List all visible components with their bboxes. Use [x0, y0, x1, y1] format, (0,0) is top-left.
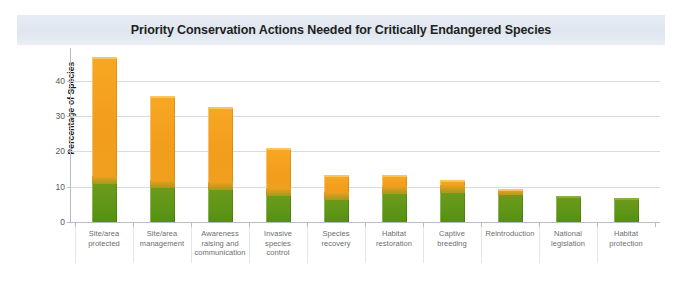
bar-highlight-cap — [556, 196, 581, 198]
bar[interactable] — [324, 175, 349, 222]
y-tick-mark — [67, 187, 71, 188]
y-tick-mark — [67, 81, 71, 82]
bar[interactable] — [440, 180, 465, 222]
x-axis-label: Habitatrestoration — [365, 229, 423, 248]
bar[interactable] — [614, 198, 639, 222]
y-tick-label: 40 — [56, 76, 65, 86]
bar-highlight-cap — [266, 148, 291, 150]
y-tick-mark — [67, 151, 71, 152]
bar-highlight-cap — [150, 96, 175, 98]
bar-segment-upper — [92, 57, 117, 184]
x-axis-label: Site/areamanagement — [133, 229, 191, 248]
bar-segment-lower — [324, 200, 349, 222]
scan-artifact-strip — [0, 0, 682, 14]
chart-figure: Priority Conservation Actions Needed for… — [0, 0, 682, 284]
bar-segment-upper — [208, 107, 233, 190]
bar-highlight-cap — [208, 107, 233, 109]
chart-title-banner: Priority Conservation Actions Needed for… — [17, 15, 665, 45]
y-axis-line — [70, 48, 71, 222]
bar-highlight-cap — [614, 198, 639, 200]
y-tick-mark — [67, 116, 71, 117]
x-axis-label: Invasivespeciescontrol — [249, 229, 307, 258]
bar-segment-lower — [266, 196, 291, 222]
x-axis-label: Habitatprotection — [597, 229, 655, 248]
bar[interactable] — [92, 57, 117, 222]
gridline — [70, 81, 660, 82]
y-tick-mark — [67, 222, 71, 223]
x-axis-label: Reintroduction — [481, 229, 539, 239]
y-tick-label: 30 — [56, 111, 65, 121]
bar-segment-lower — [440, 193, 465, 222]
bar[interactable] — [150, 96, 175, 222]
bar-segment-lower — [556, 196, 581, 222]
bar-highlight-cap — [92, 57, 117, 59]
bar-highlight-cap — [498, 189, 523, 191]
x-axis-label: Captivebreeding — [423, 229, 481, 248]
y-tick-label: 20 — [56, 146, 65, 156]
bar-segment-lower — [498, 195, 523, 222]
plot-inner: 010203040 Site/areaprotectedSite/areaman… — [70, 45, 662, 273]
bar[interactable] — [266, 148, 291, 222]
bar[interactable] — [382, 175, 407, 222]
bar-highlight-cap — [382, 175, 407, 177]
bar[interactable] — [498, 189, 523, 222]
bar-highlight-cap — [440, 180, 465, 182]
bar-segment-lower — [382, 194, 407, 222]
y-tick-label: 10 — [56, 182, 65, 192]
chart-title: Priority Conservation Actions Needed for… — [131, 23, 551, 37]
plot-area: Percentage of Species 010203040 Site/are… — [17, 45, 665, 273]
bar[interactable] — [208, 107, 233, 222]
bar-highlight-cap — [324, 175, 349, 177]
x-axis-label: Site/areaprotected — [75, 229, 133, 248]
bar-segment-lower — [150, 188, 175, 222]
bar[interactable] — [556, 196, 581, 222]
x-tick-mark — [655, 222, 656, 227]
x-axis-label: Nationallegislation — [539, 229, 597, 248]
bar-segment-lower — [614, 198, 639, 222]
x-axis-label: Speciesrecovery — [307, 229, 365, 248]
bar-segment-upper — [150, 96, 175, 188]
bar-segment-lower — [208, 190, 233, 222]
x-axis-label: Awarenessraising andcommunication — [191, 229, 249, 258]
bar-segment-lower — [92, 184, 117, 222]
y-tick-label: 0 — [60, 217, 65, 227]
